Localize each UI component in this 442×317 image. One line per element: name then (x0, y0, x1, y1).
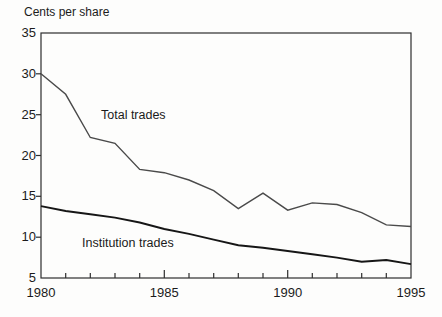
x-axis-label-1995: 1995 (389, 285, 433, 301)
y-axis-label-10: 10 (0, 228, 36, 246)
y-axis-label-20: 20 (0, 147, 36, 165)
y-axis-label-30: 30 (0, 65, 36, 83)
line-chart-canvas (0, 0, 442, 317)
chart-figure: Cents per share Total trades Institution… (0, 0, 442, 317)
x-axis-label-1990: 1990 (266, 285, 310, 301)
x-axis-label-1980: 1980 (19, 285, 63, 301)
x-axis-label-1985: 1985 (142, 285, 186, 301)
series-label-institution-trades: Institution trades (82, 236, 174, 250)
total-trades-line (41, 74, 411, 227)
y-axis-label-25: 25 (0, 106, 36, 124)
chart-title: Cents per share (24, 5, 109, 19)
y-axis-label-15: 15 (0, 187, 36, 205)
series-label-total-trades: Total trades (101, 108, 166, 122)
y-axis-label-35: 35 (0, 24, 36, 42)
